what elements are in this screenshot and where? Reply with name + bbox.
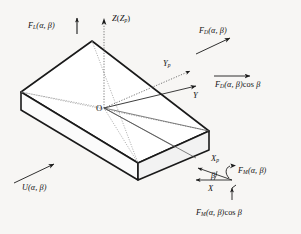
force-diagram-figure: FL(α, β) Z(Zp) FD(α, β) Yp FD(α, β)cos β…	[0, 0, 301, 234]
y-axis-label: Y	[193, 92, 198, 100]
free-stream-velocity-label: U(α, β)	[22, 184, 47, 192]
lift-force-label: FL(α, β)	[28, 22, 55, 31]
origin-label: O	[96, 104, 102, 113]
free-stream-velocity-arrow	[14, 164, 54, 183]
xp-axis-label: Xp	[211, 155, 219, 164]
lateral-force-component-arrow	[232, 185, 236, 200]
lateral-force-component-label: FM(α, β)cos β	[196, 209, 242, 218]
diagram-canvas	[0, 0, 301, 234]
drag-force-arrow	[196, 38, 230, 54]
yp-axis-label: Yp	[163, 60, 171, 69]
beta-angle-label: β	[211, 171, 215, 180]
lateral-force-label: FM(α, β)	[238, 167, 266, 176]
drag-force-component-label: FD(α, β)cos β	[215, 81, 260, 90]
z-axis-label: Z(Zp)	[112, 15, 130, 24]
x-axis-label: X	[208, 185, 213, 193]
lateral-force-arrow	[226, 164, 236, 178]
drag-force-label: FD(α, β)	[199, 27, 227, 36]
